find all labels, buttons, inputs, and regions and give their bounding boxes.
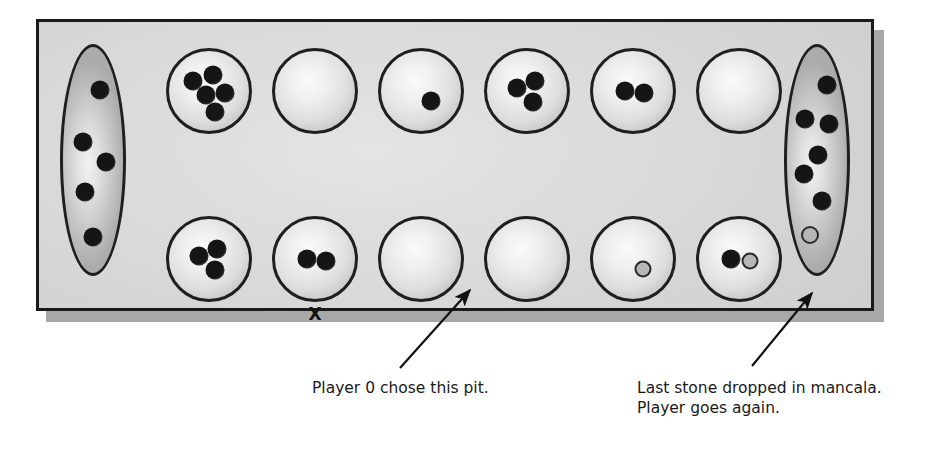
- bottom-pit-6[interactable]: [696, 216, 782, 302]
- stone-solid: [809, 146, 828, 165]
- bottom-pit-5[interactable]: [590, 216, 676, 302]
- stone-solid: [84, 227, 103, 246]
- stone-solid: [208, 240, 227, 259]
- left-mancala[interactable]: [60, 44, 126, 276]
- bottom-pit-1[interactable]: [166, 216, 252, 302]
- top-pit-2[interactable]: [272, 48, 358, 134]
- stone-solid: [97, 153, 116, 172]
- bottom-pit-4[interactable]: [484, 216, 570, 302]
- bottom-pit-3[interactable]: [378, 216, 464, 302]
- stone-solid: [206, 261, 225, 280]
- right-mancala[interactable]: [784, 44, 850, 276]
- bottom-pit-2[interactable]: [272, 216, 358, 302]
- top-pit-3[interactable]: [378, 48, 464, 134]
- chosen-pit-caption: Player 0 chose this pit.: [312, 378, 489, 398]
- stone-solid: [820, 114, 839, 133]
- mancala-diagram: X Player 0 chose this pit. Last stone dr…: [0, 0, 933, 450]
- stone-solid: [812, 191, 831, 210]
- stone-hollow: [801, 226, 819, 244]
- stone-solid: [216, 83, 235, 102]
- stone-solid: [635, 83, 654, 102]
- top-pit-5[interactable]: [590, 48, 676, 134]
- stone-solid: [75, 182, 94, 201]
- stone-solid: [616, 82, 635, 101]
- top-pit-6[interactable]: [696, 48, 782, 134]
- stone-solid: [206, 102, 225, 121]
- stone-solid: [508, 78, 527, 97]
- stone-solid: [190, 246, 209, 265]
- stone-solid: [796, 110, 815, 129]
- stone-solid: [526, 72, 545, 91]
- stone-solid: [794, 164, 813, 183]
- top-pit-4[interactable]: [484, 48, 570, 134]
- top-pit-1[interactable]: [166, 48, 252, 134]
- stone-solid: [421, 91, 440, 110]
- stone-solid: [722, 250, 741, 269]
- stone-hollow: [742, 252, 759, 269]
- stone-solid: [74, 132, 93, 151]
- stone-solid: [298, 250, 317, 269]
- stone-solid: [524, 93, 543, 112]
- stone-solid: [317, 251, 336, 270]
- stone-solid: [91, 80, 110, 99]
- pit-marker-x: X: [308, 304, 321, 324]
- stone-solid: [817, 76, 836, 95]
- stone-hollow: [634, 260, 651, 277]
- stone-solid: [204, 66, 223, 85]
- mancala-caption: Last stone dropped in mancala. Player go…: [637, 378, 882, 419]
